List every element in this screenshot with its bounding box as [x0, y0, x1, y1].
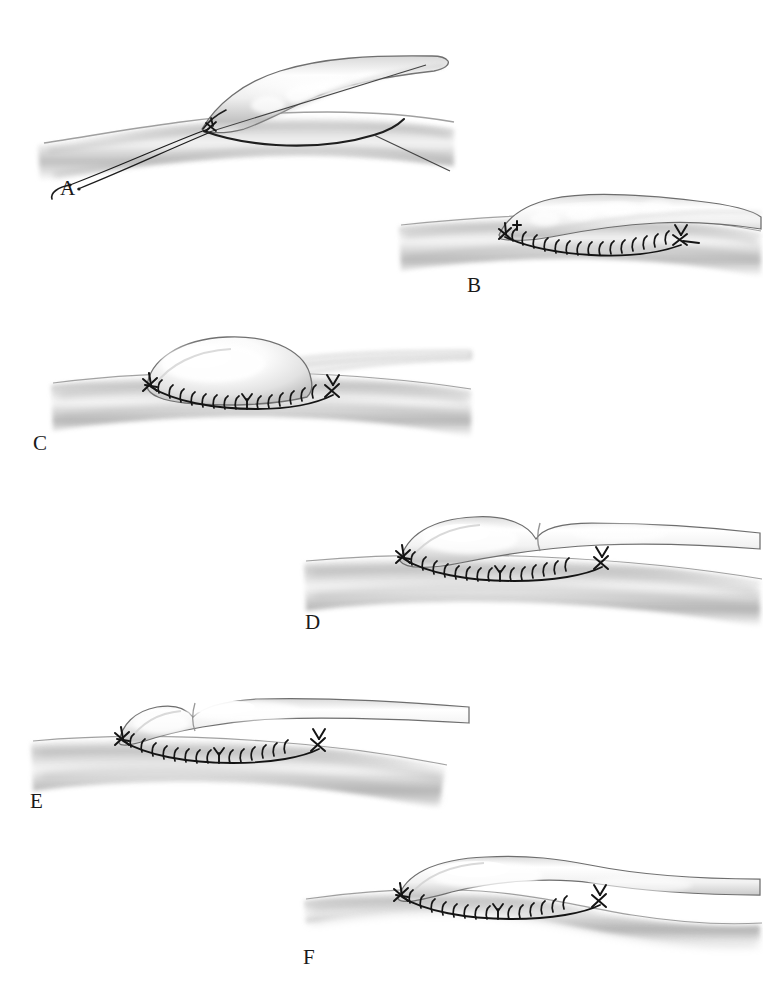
panel-c: C — [45, 325, 475, 460]
panel-f: F — [300, 845, 763, 970]
right-corner-knot — [311, 729, 325, 751]
panel-d: D — [300, 505, 763, 635]
panel-label-e: E — [30, 791, 43, 812]
host-vessel — [31, 737, 447, 810]
figure-canvas: A — [0, 0, 763, 986]
host-vessel — [304, 555, 762, 627]
graft-vessel-bilobed — [400, 517, 760, 568]
panel-b-illustration — [395, 185, 763, 305]
panel-e: E — [25, 685, 475, 815]
graft-limb — [295, 351, 471, 375]
panel-a-illustration — [30, 25, 460, 200]
panel-label-d: D — [305, 612, 320, 633]
panel-label-f: F — [303, 947, 315, 968]
panel-f-illustration — [300, 845, 763, 970]
panel-b: B — [395, 185, 763, 305]
panel-label-c: C — [33, 433, 47, 454]
panel-c-illustration — [45, 325, 475, 460]
panel-e-illustration — [25, 685, 475, 815]
panel-label-b: B — [467, 275, 481, 296]
host-vessel-waisted — [304, 889, 762, 943]
graft-vessel-domed — [147, 337, 312, 405]
panel-a: A — [30, 25, 460, 200]
graft-vessel-flat — [119, 698, 469, 745]
panel-label-a: A — [60, 178, 75, 199]
panel-d-illustration — [300, 505, 763, 635]
